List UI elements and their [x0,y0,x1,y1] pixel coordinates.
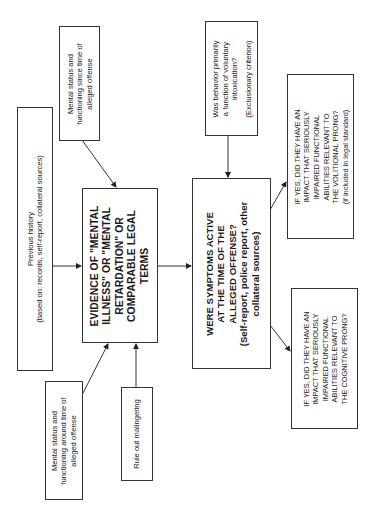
volitional-line4: ABILITIES RELEVANT TO [321,77,331,237]
symptoms-active-line2: AT THE TIME OF THE [214,181,226,367]
spacer [238,23,243,134]
volitional-line3: IMPAIRED FUNCTIONAL [311,77,321,237]
evidence-line2: ILLNESS" OR "MENTAL [101,191,113,341]
mental-status-since-line1: Mental status and [65,28,74,139]
node-voluntary-intoxication: Was behavior primarily a function of vol… [205,21,258,136]
cognitive-line4: ABILITIES RELEVANT TO [329,291,339,427]
node-mental-status-since: Mental status and functioning since time… [59,26,100,141]
evidence-line1: EVIDENCE OF "MENTAL [89,191,101,341]
intoxication-line1: Was behavior primarily [210,23,219,134]
volitional-line5: THE VOLITIONAL PRONG? [330,77,340,237]
edge-around-evidence [82,344,108,395]
cognitive-line3: IMPAIRED FUNCTIONAL [320,291,330,427]
previous-history-line2: (based on: records, self-report, collate… [35,110,44,368]
intoxication-line4: (Exclusionary criterion) [243,23,252,134]
evidence-line4: COMPARABLE LEGAL [126,191,138,341]
mental-status-since-line2: functioning since time of [75,28,84,139]
intoxication-line3: intoxication? [229,23,238,134]
rule-out-malingering-label: Rule out malingering [132,389,141,479]
edge-since-evidence [82,140,116,187]
node-cognitive-prong: IF YES, DID THEY HAVE AN IMPACT THAT SER… [291,288,358,429]
cognitive-line5: THE COGNITIVE PRONG? [339,291,349,427]
node-rule-out-malingering: Rule out malingering [121,387,153,481]
symptoms-active-line5: collateral sources) [249,181,261,367]
symptoms-active-line3: ALLEGED OFFENSE? [226,181,238,367]
volitional-line2: IMPACT THAT SERIOUSLY [301,77,311,237]
edge-symptoms-volitional [270,182,286,210]
previous-history-line1: Previous history [26,110,35,368]
node-symptoms-active: WERE SYMPTOMS ACTIVE AT THE TIME OF THE … [192,178,271,369]
volitional-line1: IF YES, DID THEY HAVE AN [292,77,302,237]
cognitive-line1: IF YES, DID THEY HAVE AN [301,291,311,427]
mental-status-around-line2: functioning around time of [59,383,68,498]
node-previous-history: Previous history (based on: records, sel… [17,107,53,371]
evidence-line3: RETARDATION" OR [114,191,126,341]
mental-status-around-line1: Mental status and [50,383,59,498]
symptoms-active-line1: WERE SYMPTOMS ACTIVE [203,181,215,367]
evidence-line5: TERMS [139,191,151,341]
mental-status-around-line3: alleged offense [69,383,78,498]
mental-status-since-line3: alleged offense [84,28,93,139]
node-evidence: EVIDENCE OF "MENTAL ILLNESS" OR "MENTAL … [82,188,158,343]
cognitive-line2: IMPACT THAT SERIOUSLY [310,291,320,427]
symptoms-active-line4: (Self-report, police report, other [237,181,249,367]
edge-symptoms-cognitive [270,325,290,351]
node-mental-status-around: Mental status and functioning around tim… [45,381,83,500]
volitional-line6: (if included in legal standard) [340,77,350,237]
node-volitional-prong: IF YES, DID THEY HAVE AN IMPACT THAT SER… [287,74,354,239]
intoxication-line2: a function of voluntary [220,23,229,134]
